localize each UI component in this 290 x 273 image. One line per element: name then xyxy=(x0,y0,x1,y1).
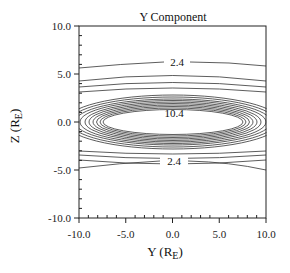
x-tick-label: 10.0 xyxy=(256,228,276,240)
y-axis-label: Z (RE) xyxy=(7,109,24,144)
y-tick-label: -10.0 xyxy=(48,212,71,224)
chart-title-overlay: Y Component xyxy=(139,10,207,24)
x-tick-label: -10.0 xyxy=(68,228,91,240)
y-tick-label: 0.0 xyxy=(57,116,71,128)
contour-label-lower: 2.4 xyxy=(167,155,181,167)
contour-label-upper: 2.4 xyxy=(170,56,184,68)
plot-frame xyxy=(79,26,266,218)
y-tick-label: -5.0 xyxy=(54,164,72,176)
contour-label-center: 10.4 xyxy=(164,107,184,119)
x-tick-label: -5.0 xyxy=(117,228,135,240)
x-tick-label: 5.0 xyxy=(212,228,226,240)
x-tick-label: 0.0 xyxy=(166,228,180,240)
y-tick-label: 5.0 xyxy=(57,68,71,80)
contour-chart: Y Component 2.4 10.4 2.4 Y Compone xyxy=(0,0,290,273)
y-tick-label: 10.0 xyxy=(52,20,72,32)
